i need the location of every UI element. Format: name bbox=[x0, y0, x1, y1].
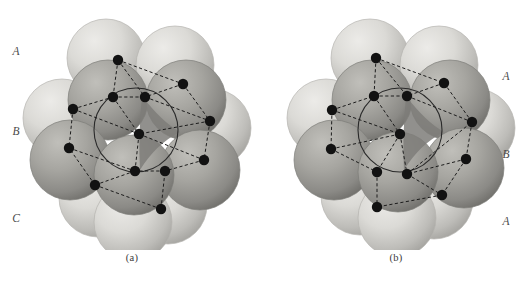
lattice-dot-5 bbox=[467, 117, 477, 127]
layer-label-a1: A bbox=[8, 45, 24, 57]
lattice-dot-2 bbox=[108, 92, 118, 102]
lattice-dot-0 bbox=[371, 53, 381, 63]
lattice-dot-7 bbox=[326, 144, 336, 154]
panel-b-svg bbox=[264, 0, 528, 250]
lattice-dot-9 bbox=[130, 166, 140, 176]
layer-label-a3: C bbox=[8, 212, 24, 224]
lattice-dot-3 bbox=[402, 91, 412, 101]
layer-label-b3: A bbox=[498, 215, 514, 227]
lattice-dot-1 bbox=[439, 78, 449, 88]
lattice-dot-11 bbox=[437, 190, 447, 200]
lattice-dot-8 bbox=[199, 155, 209, 165]
lattice-dot-1 bbox=[178, 79, 188, 89]
close-packing-figure: (a) bbox=[0, 0, 528, 284]
lattice-dot-10 bbox=[402, 169, 412, 179]
panel-b: (b) bbox=[264, 0, 528, 284]
lattice-dot-0 bbox=[113, 55, 123, 65]
panel-a: (a) bbox=[0, 0, 264, 284]
lattice-dot-5 bbox=[205, 116, 215, 126]
layer-label-b1: A bbox=[498, 70, 514, 82]
lattice-dot-4 bbox=[327, 105, 337, 115]
panel-a-stage bbox=[0, 0, 264, 250]
lattice-dot-8 bbox=[461, 154, 471, 164]
lattice-dot-10 bbox=[160, 166, 170, 176]
lattice-dot-12 bbox=[372, 202, 382, 212]
layer-label-a2: B bbox=[8, 125, 24, 137]
lattice-dot-4 bbox=[68, 104, 78, 114]
layer-label-b2: B bbox=[498, 148, 514, 160]
lattice-dot-6 bbox=[395, 129, 405, 139]
lattice-dot-3 bbox=[140, 92, 150, 102]
lattice-dot-7 bbox=[64, 143, 74, 153]
panel-a-caption: (a) bbox=[0, 252, 264, 263]
lattice-dot-11 bbox=[90, 180, 100, 190]
lattice-dot-12 bbox=[156, 204, 166, 214]
panel-b-caption: (b) bbox=[264, 252, 528, 263]
panel-b-stage bbox=[264, 0, 528, 250]
lattice-dot-2 bbox=[369, 91, 379, 101]
panel-a-svg bbox=[0, 0, 264, 250]
lattice-dot-6 bbox=[134, 129, 144, 139]
lattice-dot-9 bbox=[372, 167, 382, 177]
